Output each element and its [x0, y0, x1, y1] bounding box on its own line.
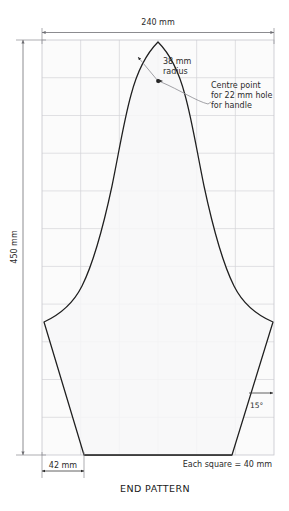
centre-point-note-line2: for 22 mm hole [211, 91, 273, 100]
centre-point-note-line1: Centre point [211, 81, 261, 90]
page-title: END PATTERN [120, 483, 190, 494]
grid-scale-note: Each square = 40 mm [183, 460, 273, 469]
radius-label-line2: radius [163, 67, 188, 76]
width-dimension-label: 240 mm [141, 18, 175, 27]
height-dimension-label: 450 mm [10, 230, 19, 264]
angle-label: 15° [250, 401, 264, 410]
radius-label-line1: 38 mm [163, 57, 192, 66]
centre-point-note-line3: for handle [211, 101, 252, 110]
end-pattern-technical-drawing: 240 mm 450 mm 42 mm 38 mm radius Centre … [0, 0, 289, 511]
base-offset-label: 42 mm [49, 461, 78, 470]
